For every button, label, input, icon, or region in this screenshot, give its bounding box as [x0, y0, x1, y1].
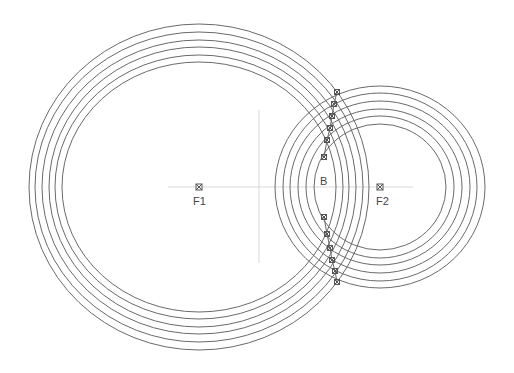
focus-label-f1: F1: [193, 196, 206, 207]
point-label-b: B: [320, 176, 327, 187]
focus-label-f2: F2: [376, 196, 389, 207]
diagram-canvas: F1 F2 B: [0, 0, 514, 373]
circles-diagram: [0, 0, 514, 373]
